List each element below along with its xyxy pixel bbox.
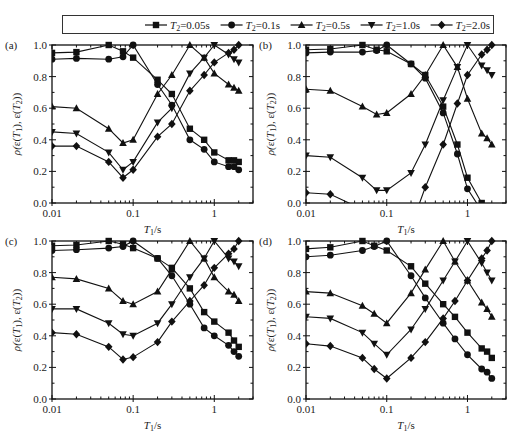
data-point bbox=[302, 85, 310, 92]
series-T22_0s bbox=[48, 237, 242, 364]
data-point bbox=[483, 270, 491, 277]
legend-marker-circle bbox=[228, 22, 235, 29]
y-tick-label: 1.0 bbox=[287, 39, 301, 51]
data-point bbox=[235, 166, 242, 173]
data-point bbox=[73, 49, 79, 55]
data-point bbox=[383, 238, 390, 245]
data-point bbox=[130, 54, 136, 60]
data-point bbox=[370, 310, 378, 317]
y-tick-label: 1.0 bbox=[287, 235, 301, 247]
data-point bbox=[478, 299, 486, 306]
data-point bbox=[73, 246, 80, 253]
data-point bbox=[48, 273, 56, 280]
plot-frame bbox=[52, 241, 253, 399]
plot-frame bbox=[306, 45, 506, 203]
data-point bbox=[421, 265, 429, 272]
data-point bbox=[73, 55, 80, 62]
data-point bbox=[73, 142, 81, 150]
legend-label: T2=0.5s bbox=[316, 19, 350, 33]
data-point bbox=[407, 170, 415, 177]
data-point bbox=[130, 238, 137, 245]
y-tick-label: 0.8 bbox=[33, 267, 47, 279]
data-point bbox=[154, 320, 162, 327]
data-point bbox=[488, 72, 496, 79]
series-T20_1s bbox=[303, 238, 496, 382]
data-point bbox=[211, 318, 217, 324]
x-tick-label: 0.01 bbox=[296, 207, 315, 219]
data-point bbox=[120, 53, 127, 60]
data-point bbox=[407, 289, 415, 296]
y-tick-label: 0.4 bbox=[287, 330, 301, 342]
data-point bbox=[303, 253, 310, 260]
data-point bbox=[225, 81, 233, 88]
data-point bbox=[327, 315, 335, 322]
data-point bbox=[383, 352, 391, 359]
legend-marker-square bbox=[153, 22, 159, 28]
data-point bbox=[106, 238, 112, 244]
data-point bbox=[154, 81, 161, 88]
data-point bbox=[211, 159, 218, 166]
data-point bbox=[303, 246, 309, 252]
x-tick-label: 0.01 bbox=[42, 403, 61, 415]
x-tick-label: 1 bbox=[212, 403, 218, 415]
data-point bbox=[154, 255, 161, 262]
data-point bbox=[186, 274, 194, 281]
x-tick-label: 1 bbox=[465, 207, 471, 219]
data-point bbox=[169, 91, 175, 97]
y-tick-label: 0.6 bbox=[287, 102, 301, 114]
data-point bbox=[489, 355, 495, 361]
data-point bbox=[488, 278, 496, 285]
data-point bbox=[484, 369, 491, 376]
data-point bbox=[201, 137, 207, 143]
data-point bbox=[454, 99, 462, 107]
data-point bbox=[464, 185, 471, 192]
y-tick-label: 1.0 bbox=[33, 39, 47, 51]
y-tick-label: 0.8 bbox=[287, 71, 301, 83]
data-point bbox=[105, 56, 112, 63]
y-tick-label: 1.0 bbox=[33, 235, 47, 247]
data-point bbox=[451, 297, 459, 305]
y-tick-label: 0.4 bbox=[33, 134, 47, 146]
data-point bbox=[421, 183, 429, 191]
y-tick-label: 0.4 bbox=[33, 330, 47, 342]
data-point bbox=[422, 280, 428, 286]
y-tick-label: 0.4 bbox=[287, 134, 301, 146]
data-point bbox=[120, 243, 127, 250]
data-point bbox=[371, 243, 378, 250]
data-point bbox=[211, 332, 218, 339]
y-tick-label: 0.2 bbox=[287, 361, 301, 373]
series-line bbox=[52, 45, 239, 143]
y-tick-label: 0.8 bbox=[287, 267, 301, 279]
data-point bbox=[201, 146, 208, 153]
series-line bbox=[306, 45, 492, 145]
data-point bbox=[187, 126, 193, 132]
data-point bbox=[478, 129, 486, 136]
x-axis-label: T1/s bbox=[144, 223, 161, 237]
y-tick-label: 0.6 bbox=[33, 298, 47, 310]
data-point bbox=[187, 285, 193, 291]
legend-label: T2=1.0s bbox=[386, 19, 420, 33]
data-point bbox=[129, 333, 137, 340]
data-point bbox=[359, 247, 366, 254]
data-point bbox=[231, 337, 237, 343]
data-point bbox=[154, 288, 162, 295]
y-tick-label: 0.2 bbox=[33, 165, 47, 177]
series-line bbox=[52, 241, 239, 347]
chart-panel-d: 0.00.20.40.60.81.00.010.11(d)T1/sρ(ε(T1)… bbox=[259, 235, 506, 433]
data-point bbox=[49, 56, 56, 63]
chart-panel-c: 0.00.20.40.60.81.00.010.11(c)T1/sρ(ε(T1)… bbox=[5, 235, 253, 433]
data-point bbox=[119, 167, 127, 174]
data-point bbox=[383, 42, 390, 49]
series-line bbox=[52, 241, 239, 336]
series-line bbox=[52, 241, 239, 360]
series-line bbox=[306, 45, 492, 227]
data-point bbox=[235, 263, 243, 270]
series-line bbox=[306, 241, 492, 379]
x-axis-label: T1/s bbox=[144, 419, 161, 433]
data-point bbox=[73, 330, 81, 338]
data-point bbox=[452, 314, 458, 320]
x-tick-label: 0.01 bbox=[296, 403, 315, 415]
data-point bbox=[225, 342, 232, 349]
data-point bbox=[210, 69, 218, 76]
x-tick-label: 0.1 bbox=[380, 207, 394, 219]
